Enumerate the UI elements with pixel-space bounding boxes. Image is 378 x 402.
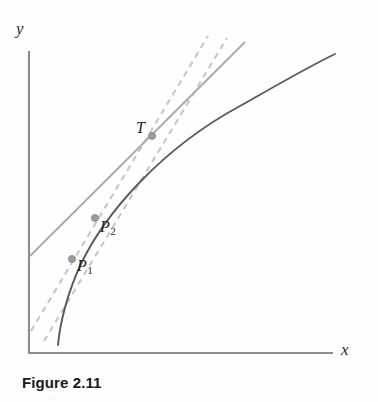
x-axis-label: x bbox=[341, 341, 349, 358]
point-marker-t bbox=[148, 132, 155, 139]
function-curve bbox=[58, 54, 335, 345]
secant-line-p2 bbox=[44, 38, 227, 341]
point-label-p1-subscript: 1 bbox=[87, 264, 93, 276]
point-label-p2: P2 bbox=[100, 219, 116, 237]
point-label-p1: P1 bbox=[77, 258, 93, 276]
figure-caption: Figure 2.11 bbox=[22, 374, 101, 391]
point-label-t: T bbox=[136, 120, 145, 136]
point-label-p1-base: P bbox=[77, 257, 87, 274]
point-marker-p1 bbox=[68, 255, 75, 262]
secant-line-p1 bbox=[31, 36, 208, 331]
y-axis-label: y bbox=[16, 20, 24, 37]
figure-container: y x T P2 P1 Figure 2.11 bbox=[0, 0, 378, 402]
point-marker-p2 bbox=[91, 214, 98, 221]
tangent-line bbox=[30, 42, 245, 256]
figure-graphic bbox=[0, 0, 378, 370]
point-label-p2-subscript: 2 bbox=[110, 225, 116, 237]
point-label-p2-base: P bbox=[100, 218, 110, 235]
